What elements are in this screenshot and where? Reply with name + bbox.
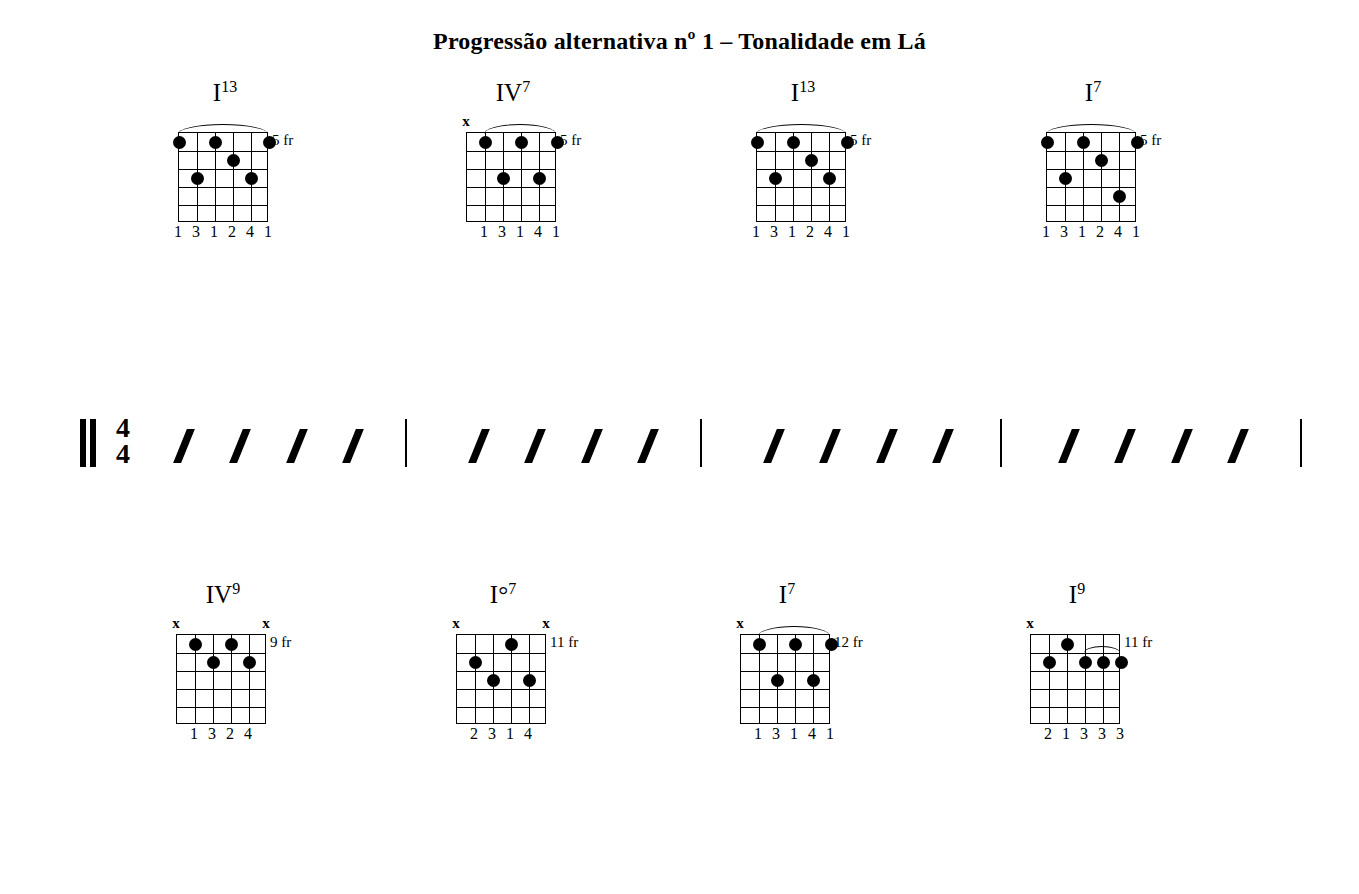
fret-line <box>1047 151 1135 152</box>
finger-number: 1 <box>174 224 182 240</box>
finger-dot <box>1059 172 1072 185</box>
beat-slash <box>876 429 898 463</box>
finger-dot <box>753 638 766 651</box>
barre-arc <box>756 124 846 134</box>
finger-number: 4 <box>534 224 542 240</box>
fret-grid <box>756 132 846 222</box>
barline <box>1300 419 1302 467</box>
muted-string-marker: x <box>172 616 180 631</box>
muted-string-marker: x <box>462 114 470 129</box>
chord-extension: 9 <box>232 580 240 597</box>
beat-slash <box>1171 429 1193 463</box>
beat-slash <box>932 429 954 463</box>
beat-slash <box>524 429 546 463</box>
chord-name: IV9 <box>148 582 298 612</box>
time-signature-bottom: 4 <box>116 441 130 467</box>
chord-name: I7 <box>712 582 862 612</box>
double-barline <box>90 419 96 467</box>
fretboard: 5 fr131241 <box>1018 110 1168 235</box>
chord-name: I13 <box>150 80 300 110</box>
finger-number: 1 <box>210 224 218 240</box>
chord-diagram[interactable]: IV9xx9 fr1324 <box>148 582 298 737</box>
fret-position-label: 5 fr <box>560 132 581 149</box>
finger-number: 1 <box>754 726 762 742</box>
chord-roman: I <box>791 79 799 106</box>
fret-line <box>741 671 829 672</box>
finger-number: 1 <box>1078 224 1086 240</box>
chord-extension: 7 <box>508 580 516 597</box>
fret-line <box>457 671 545 672</box>
chord-row: I135 fr131241IV7x5 fr13141I135 fr131241I… <box>0 80 1359 255</box>
chord-diagram[interactable]: I135 fr131241 <box>150 80 300 235</box>
chord-roman: I <box>779 581 787 608</box>
chord-diagram[interactable]: I135 fr131241 <box>728 80 878 235</box>
string-line <box>1119 133 1120 221</box>
finger-dot <box>515 136 528 149</box>
finger-dot <box>1097 656 1110 669</box>
finger-number: 1 <box>516 224 524 240</box>
fret-line <box>177 653 265 654</box>
chord-roman: I° <box>490 581 508 608</box>
chord-extension: 9 <box>1077 580 1085 597</box>
fret-line <box>741 689 829 690</box>
barline <box>700 419 702 467</box>
finger-dot <box>1113 190 1126 203</box>
finger-number: 1 <box>790 726 798 742</box>
chord-diagram[interactable]: I°7xx11 fr2314 <box>428 582 578 737</box>
beat-slash <box>819 429 841 463</box>
time-signature: 44 <box>116 415 130 467</box>
beat-slash <box>581 429 603 463</box>
chord-roman: IV <box>496 79 522 106</box>
finger-dot <box>1041 136 1054 149</box>
finger-dot <box>1061 638 1074 651</box>
finger-dot <box>789 638 802 651</box>
fret-line <box>757 169 845 170</box>
chord-diagram[interactable]: I75 fr131241 <box>1018 80 1168 235</box>
fret-line <box>467 169 555 170</box>
finger-dot <box>1079 656 1092 669</box>
chord-name: I7 <box>1018 80 1168 110</box>
chord-name: IV7 <box>438 80 588 110</box>
finger-number: 4 <box>824 224 832 240</box>
fret-line <box>467 151 555 152</box>
chord-diagram[interactable]: I9x11 fr21333 <box>1002 582 1152 737</box>
fretboard: x11 fr21333 <box>1002 612 1152 737</box>
fret-position-label: 5 fr <box>850 132 871 149</box>
fret-line <box>757 205 845 206</box>
finger-dot <box>751 136 764 149</box>
barre-arc <box>758 626 830 636</box>
finger-number: 3 <box>488 726 496 742</box>
fret-line <box>179 169 267 170</box>
fret-grid <box>178 132 268 222</box>
finger-number: 1 <box>752 224 760 240</box>
finger-number: 1 <box>788 224 796 240</box>
finger-dot <box>805 154 818 167</box>
fretboard: 5 fr131241 <box>728 110 878 235</box>
finger-dot <box>227 154 240 167</box>
finger-number: 4 <box>1114 224 1122 240</box>
beat-slash <box>173 429 195 463</box>
chord-name: I13 <box>728 80 878 110</box>
fret-line <box>757 151 845 152</box>
fret-line <box>177 671 265 672</box>
fret-line <box>467 205 555 206</box>
beat-slash <box>229 429 251 463</box>
finger-dot <box>1077 136 1090 149</box>
fret-line <box>179 151 267 152</box>
chord-name: I°7 <box>428 582 578 612</box>
fingering-row: 131241 <box>1046 224 1136 244</box>
fretboard: 5 fr131241 <box>150 110 300 235</box>
fret-line <box>1031 653 1119 654</box>
chord-diagram[interactable]: IV7x5 fr13141 <box>438 80 588 235</box>
fret-position-label: 9 fr <box>270 634 291 651</box>
chord-diagram[interactable]: I7x12 fr13141 <box>712 582 862 737</box>
string-line <box>249 635 250 723</box>
fingering-row: 2314 <box>456 726 546 746</box>
finger-dot <box>207 656 220 669</box>
double-barline <box>80 419 86 467</box>
finger-dot <box>225 638 238 651</box>
fret-position-label: 5 fr <box>272 132 293 149</box>
finger-number: 2 <box>1044 726 1052 742</box>
finger-dot <box>823 172 836 185</box>
finger-dot <box>1043 656 1056 669</box>
